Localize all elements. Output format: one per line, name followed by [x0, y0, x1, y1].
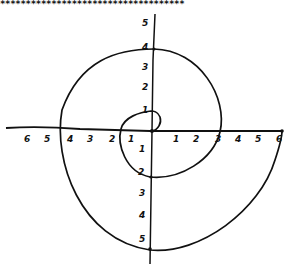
y-label-pos-5: 5: [142, 18, 148, 28]
y-label-neg-2: 2: [138, 167, 144, 177]
point-y-4: [153, 48, 156, 51]
spiral-curve: [60, 49, 282, 250]
point-y-neg-2: [149, 175, 152, 178]
y-label-neg-1: 1: [139, 144, 145, 154]
y-label-pos-4: 4: [141, 42, 148, 52]
x-label-pos-6: 6: [276, 134, 282, 144]
x-label-neg-3: 3: [87, 134, 93, 144]
origin-dot: [150, 129, 154, 133]
y-label-pos-1: 1: [142, 105, 148, 115]
x-label-neg-6: 6: [24, 134, 30, 144]
x-label-neg-4: 4: [66, 134, 73, 144]
x-label-neg-5: 5: [44, 134, 50, 144]
x-label-pos-4: 4: [234, 134, 241, 144]
x-axis: [6, 127, 282, 131]
y-label-pos-3: 3: [142, 62, 148, 72]
y-label-pos-2: 2: [142, 82, 148, 92]
x-label-pos-3: 3: [215, 134, 221, 144]
x-label-neg-2: 2: [109, 134, 115, 144]
y-axis: [150, 14, 155, 264]
x-label-pos-5: 5: [255, 134, 261, 144]
point-y-neg-5: [148, 247, 152, 251]
y-label-neg-3: 3: [139, 188, 145, 198]
x-label-pos-1: 1: [173, 134, 179, 144]
y-label-neg-5: 5: [139, 234, 145, 244]
y-label-neg-4: 4: [138, 210, 145, 220]
x-label-neg-1: 1: [128, 134, 134, 144]
spiral-graph: 6 5 4 3 2 1 1 2 3 4 5 6 5 4 3 2 1 1 2 3 …: [0, 0, 291, 264]
x-label-pos-2: 2: [193, 134, 199, 144]
